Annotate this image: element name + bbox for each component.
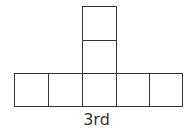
net-square-row-5 <box>149 73 183 107</box>
net-square-row-2 <box>48 73 83 107</box>
net-square-row-4 <box>116 73 150 107</box>
net-square-row-1 <box>14 73 49 107</box>
net-square-row-3 <box>82 73 117 107</box>
net-square-middle <box>82 40 117 74</box>
net-square-top <box>82 6 117 41</box>
diagram-label: 3rd <box>0 110 193 130</box>
